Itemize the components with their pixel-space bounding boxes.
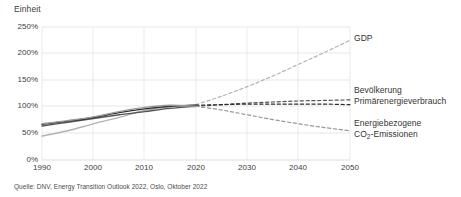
series-line-gdp	[196, 40, 350, 104]
x-tick-label: 2030	[238, 163, 256, 172]
x-tick-label: 2010	[135, 163, 153, 172]
source-note: Quelle: DNV, Energy Transition Outlook 2…	[14, 183, 207, 190]
series-line-primaerenergieverbrauch	[196, 104, 350, 105]
chart-container: Einheit 250% 200% 150% 100% 50% 0% 1990 …	[0, 0, 461, 197]
x-tick-label: 2020	[187, 163, 205, 172]
x-tick-label: 2040	[289, 163, 307, 172]
series-line-bevoelkerung	[196, 100, 350, 106]
gridlines	[42, 27, 350, 160]
series-label-bevoelkerung: Bevölkerung	[354, 85, 402, 96]
series-line-bevoelkerung	[42, 106, 196, 126]
series-label-gdp: GDP	[354, 33, 373, 44]
series-label-primaerenergieverbrauch: Primärenergieverbrauch	[354, 96, 446, 107]
series-label-co2-emissionen: Energiebezogene CO2-Emissionen	[354, 118, 421, 142]
co2-label-line2-post: -Emissionen	[371, 129, 418, 139]
series-line-energiebezogene-co2-emissionen	[196, 106, 350, 130]
x-tick-label: 2000	[84, 163, 102, 172]
co2-label-line1: Energiebezogene	[354, 118, 421, 128]
x-tick-label: 2050	[341, 163, 359, 172]
x-tick-label: 1990	[33, 163, 51, 172]
co2-label-line2-pre: CO	[354, 129, 367, 139]
